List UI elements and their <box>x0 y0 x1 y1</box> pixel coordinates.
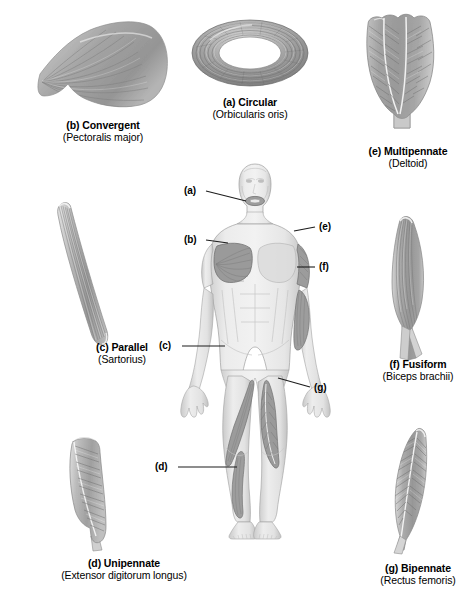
caption-bipennate-title: (g) Bipennate <box>348 562 475 574</box>
deltoid-shoulder <box>297 244 309 288</box>
caption-parallel: (c) Parallel (Sartorius) <box>52 341 192 366</box>
caption-parallel-example: (Sartorius) <box>52 353 192 365</box>
caption-multipennate: (e) Multipennate (Deltoid) <box>344 145 472 170</box>
callout-label-a: (a) <box>184 185 196 196</box>
panel-multipennate-illustration <box>354 10 458 140</box>
parallel-muscle-illustration <box>40 195 130 355</box>
callout-label-g: (g) <box>314 382 326 393</box>
callout-label-b: (b) <box>184 234 196 245</box>
caption-convergent: (b) Convergent (Pectoralis major) <box>10 119 196 144</box>
caption-circular-example: (Orbicularis oris) <box>168 108 332 120</box>
caption-convergent-title: (b) Convergent <box>10 119 196 131</box>
muscle-types-figure: (b) Convergent (Pectoralis major) <box>0 0 475 608</box>
caption-unipennate-title: (d) Unipennate <box>10 557 238 569</box>
callout-label-c: (c) <box>159 340 171 351</box>
callout-label-e: (e) <box>319 221 331 232</box>
bipennate-muscle-illustration <box>372 424 456 558</box>
caption-circular: (a) Circular (Orbicularis oris) <box>168 96 332 121</box>
caption-fusiform: (f) Fusiform (Biceps brachii) <box>354 358 475 383</box>
caption-convergent-example: (Pectoralis major) <box>10 131 196 143</box>
multipennate-muscle-illustration <box>354 10 458 140</box>
convergent-muscle-illustration <box>28 12 178 116</box>
caption-fusiform-title: (f) Fusiform <box>354 358 475 370</box>
caption-unipennate: (d) Unipennate (Extensor digitorum longu… <box>10 557 238 582</box>
unipennate-muscle-illustration <box>48 432 140 556</box>
fusiform-muscle-illustration <box>370 212 454 364</box>
panel-bipennate-illustration <box>372 424 456 558</box>
panel-circular-illustration <box>186 14 314 92</box>
caption-bipennate: (g) Bipennate (Rectus femoris) <box>348 562 475 587</box>
caption-circular-title: (a) Circular <box>168 96 332 108</box>
body-figure-panel <box>180 160 330 542</box>
caption-bipennate-example: (Rectus femoris) <box>348 574 475 586</box>
caption-multipennate-example: (Deltoid) <box>344 157 472 169</box>
circular-muscle-illustration <box>186 14 314 92</box>
panel-unipennate-illustration <box>48 432 140 556</box>
callout-label-f: (f) <box>319 261 329 272</box>
caption-fusiform-example: (Biceps brachii) <box>354 370 475 382</box>
panel-parallel-illustration <box>40 195 130 355</box>
panel-convergent-illustration <box>28 12 178 116</box>
caption-unipennate-example: (Extensor digitorum longus) <box>10 569 238 581</box>
panel-fusiform-illustration <box>370 212 454 364</box>
caption-multipennate-title: (e) Multipennate <box>344 145 472 157</box>
anterior-human-body-figure <box>180 160 330 542</box>
caption-parallel-title: (c) Parallel <box>52 341 192 353</box>
callout-label-d: (d) <box>155 461 167 472</box>
